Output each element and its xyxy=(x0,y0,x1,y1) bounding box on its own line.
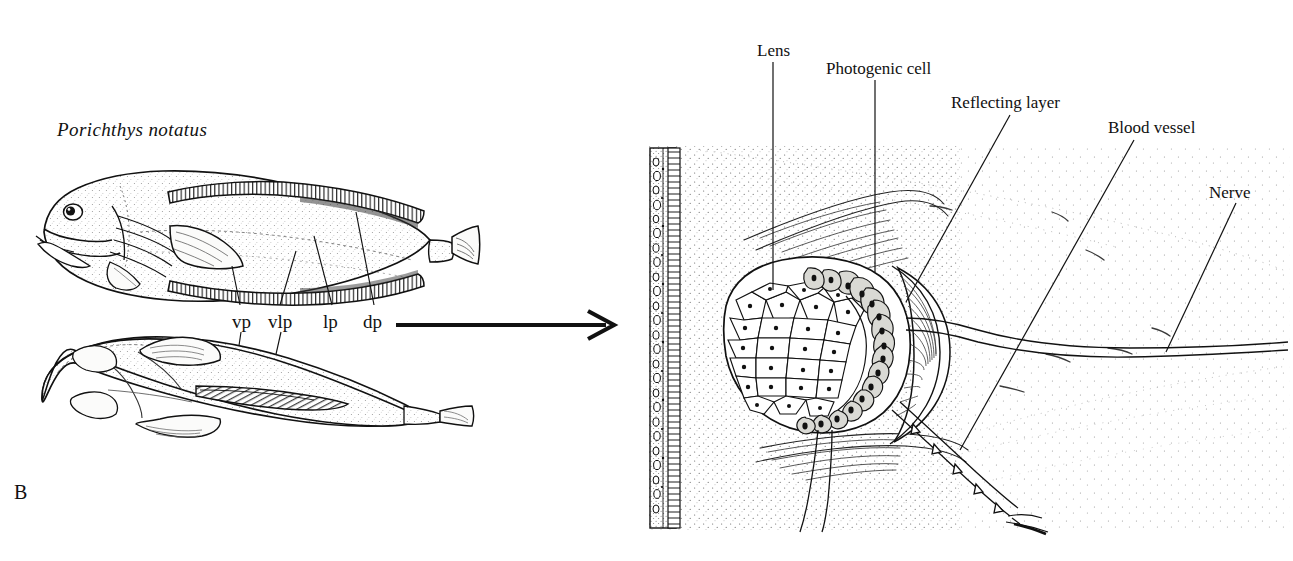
fish-label-dp: dp xyxy=(363,312,382,331)
fish-label-lp: lp xyxy=(323,312,338,331)
photophore-cross-section xyxy=(0,0,1293,561)
epidermis-layer xyxy=(650,148,680,528)
callout-photogenic-cell: Photogenic cell xyxy=(826,60,931,77)
callout-blood-vessel: Blood vessel xyxy=(1108,119,1195,136)
callout-nerve: Nerve xyxy=(1209,184,1251,201)
fish-label-vlp: vlp xyxy=(268,312,292,331)
figure-panel-b: B Porichthys notatus vp vlp lp dp Lens P… xyxy=(0,0,1293,561)
fish-label-vp: vp xyxy=(232,312,251,331)
photophore-body xyxy=(724,257,911,434)
species-name: Porichthys notatus xyxy=(57,120,207,139)
panel-label-b: B xyxy=(14,482,27,502)
callout-reflecting-layer: Reflecting layer xyxy=(951,94,1060,111)
callout-lens: Lens xyxy=(757,42,790,59)
